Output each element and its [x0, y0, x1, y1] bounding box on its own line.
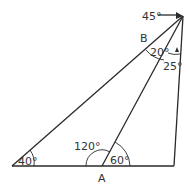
- arc-25: [168, 53, 180, 54]
- label-a: A: [98, 172, 106, 185]
- small-arrow-icon: [175, 47, 179, 52]
- label-120: 120°: [74, 140, 101, 153]
- label-45: 45°: [142, 10, 162, 23]
- label-40: 40°: [18, 155, 38, 168]
- line-right-to-top: [174, 16, 183, 166]
- label-b: B: [140, 32, 148, 45]
- label-20: 20°: [150, 46, 170, 59]
- triangle-diagram: 45° B 20° 25° 40° 120° 60° A: [0, 0, 190, 188]
- label-25: 25°: [163, 60, 183, 73]
- label-60: 60°: [110, 154, 130, 167]
